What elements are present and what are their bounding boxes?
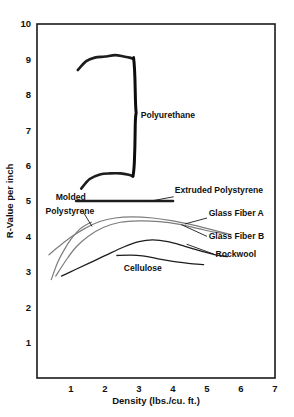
- x-tick-label: 5: [204, 383, 210, 394]
- y-tick-label: 8: [26, 89, 31, 100]
- annotation-label-polyurethane: Polyurethane: [141, 110, 196, 120]
- x-tick-label: 6: [238, 383, 243, 394]
- y-tick-label: 5: [26, 195, 32, 206]
- annotation-label-extruded-polystyrene: Extruded Polystyrene: [175, 185, 264, 195]
- x-tick-label: 2: [102, 383, 107, 394]
- chart-container: PolyurethaneExtruded PolystyreneMoldedPo…: [0, 0, 294, 417]
- r-value-density-chart: PolyurethaneExtruded PolystyreneMoldedPo…: [0, 0, 294, 417]
- annotation-label-cellulose: Cellulose: [124, 263, 162, 273]
- annotation-label-polystyrene: Polystyrene: [46, 206, 95, 216]
- x-tick-label: 4: [170, 383, 176, 394]
- annotation-label-glass-fiber-a: Glass Fiber A: [209, 208, 264, 218]
- x-tick-label: 1: [68, 383, 74, 394]
- y-tick-label: 6: [26, 160, 31, 171]
- y-tick-label: 1: [26, 337, 32, 348]
- y-tick-label: 7: [26, 125, 31, 136]
- y-tick-label: 9: [26, 54, 31, 65]
- y-tick-label: 3: [26, 266, 31, 277]
- x-tick-label: 3: [136, 383, 141, 394]
- annotation-label-molded: Molded: [56, 192, 86, 202]
- annotation-label-rockwool: Rockwool: [216, 249, 257, 259]
- y-tick-label: 4: [26, 231, 32, 242]
- y-tick-label: 2: [26, 302, 31, 313]
- x-axis-title: Density (lbs./cu. ft.): [112, 395, 200, 406]
- y-axis-title: R-Value per inch: [4, 164, 15, 239]
- x-tick-label: 7: [272, 383, 277, 394]
- y-tick-label: 10: [20, 18, 31, 29]
- annotation-label-glass-fiber-b: Glass Fiber B: [209, 231, 264, 241]
